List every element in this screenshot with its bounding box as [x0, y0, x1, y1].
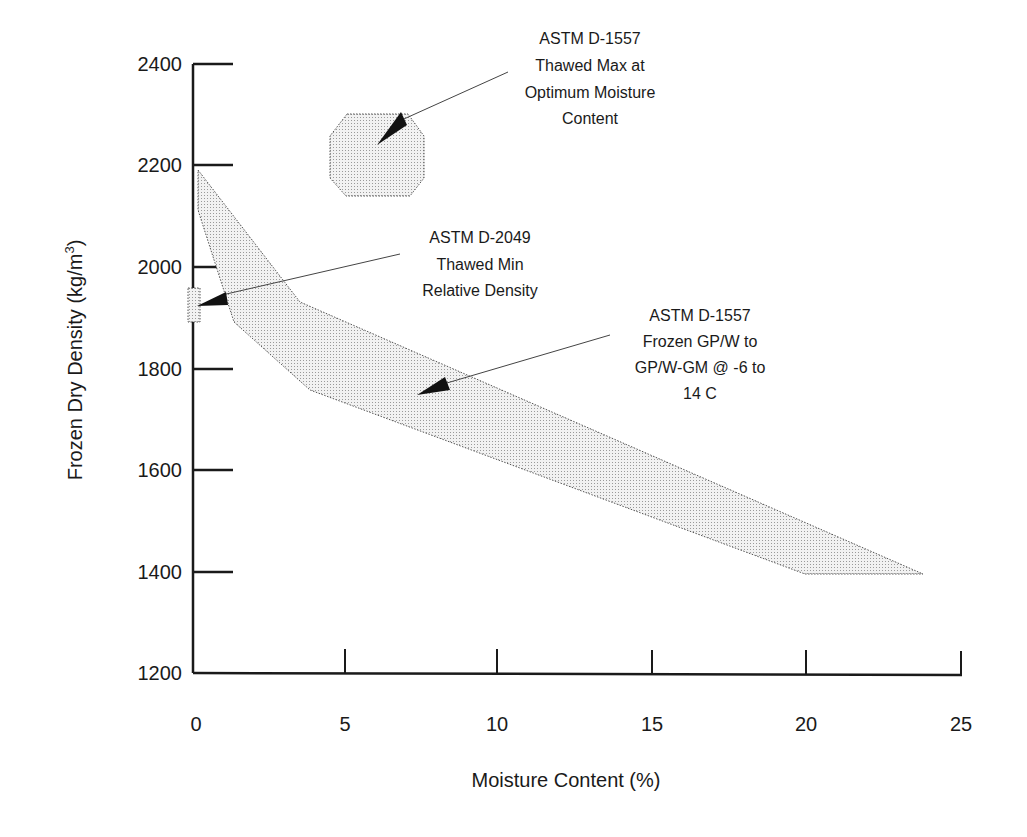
svg-text:Frozen GP/W to: Frozen GP/W to [643, 333, 758, 350]
y-tick-label: 1600 [138, 459, 183, 481]
svg-text:ASTM D-2049: ASTM D-2049 [429, 229, 530, 246]
y-tick-label: 2000 [138, 256, 183, 278]
svg-text:Content: Content [562, 110, 619, 127]
x-tick-label: 20 [795, 713, 817, 735]
x-tick-label: 10 [486, 713, 508, 735]
svg-text:ASTM D-1557: ASTM D-1557 [649, 307, 750, 324]
arrow-head-icon [197, 292, 228, 306]
y-axis: 2400 2200 2000 1800 1600 1400 1200 Froze… [62, 53, 233, 684]
annotation-frozen-band: ASTM D-1557 Frozen GP/W to GP/W-GM @ -6 … [635, 307, 766, 402]
x-axis: 0 5 10 15 20 25 Moisture Content (%) [190, 649, 972, 791]
svg-text:Thawed Max at: Thawed Max at [535, 57, 645, 74]
y-axis-title: Frozen Dry Density (kg/m3) [62, 240, 86, 481]
svg-text:14 C: 14 C [683, 385, 717, 402]
y-tick-label: 1400 [138, 561, 183, 583]
svg-text:Thawed Min: Thawed Min [436, 256, 523, 273]
y-tick-label: 2200 [138, 154, 183, 176]
y-tick-label: 1800 [138, 358, 183, 380]
svg-text:GP/W-GM @ -6 to: GP/W-GM @ -6 to [635, 359, 766, 376]
chart-canvas: 2400 2200 2000 1800 1600 1400 1200 Froze… [0, 0, 1027, 837]
x-tick-label: 0 [190, 713, 201, 735]
x-tick-label: 15 [641, 713, 663, 735]
y-tick-label: 2400 [138, 53, 183, 75]
svg-text:ASTM D-1557: ASTM D-1557 [539, 30, 640, 47]
annotation-thawed-max: ASTM D-1557 Thawed Max at Optimum Moistu… [525, 30, 656, 127]
y-tick-label: 1200 [138, 662, 183, 684]
frozen-density-band [198, 170, 923, 574]
x-axis-title: Moisture Content (%) [472, 769, 661, 791]
thawed-max-octagon [330, 114, 424, 196]
annotation-thawed-min: ASTM D-2049 Thawed Min Relative Density [422, 229, 538, 299]
annotation-arrows [197, 72, 610, 395]
svg-text:Relative Density: Relative Density [422, 282, 538, 299]
x-tick-label: 25 [950, 713, 972, 735]
svg-text:Optimum Moisture: Optimum Moisture [525, 84, 656, 101]
x-tick-label: 5 [339, 713, 350, 735]
thawed-min-rectangle [188, 288, 200, 322]
